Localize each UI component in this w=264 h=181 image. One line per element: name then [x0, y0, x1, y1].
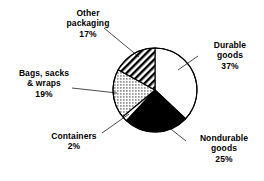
slice-label-durable-goods: Durable goods 37%	[200, 40, 260, 71]
slice-label-other-packaging: Other packaging 17%	[52, 8, 124, 39]
slice-label-bags-sacks-wraps: Bags, sacks & wraps 19%	[4, 68, 84, 99]
pie-chart-figure: Other packaging 17% Durable goods 37% Ba…	[0, 0, 264, 181]
pie-slices	[113, 48, 197, 132]
slice-label-other-packaging-line2: packaging	[52, 18, 124, 28]
slice-label-bags-sacks-wraps-line2: & wraps	[4, 78, 84, 88]
slice-label-containers-line1: Containers	[38, 131, 110, 141]
leader-line-nondurable-goods	[167, 126, 186, 141]
slice-label-other-packaging-value: 17%	[52, 29, 124, 39]
slice-label-containers-value: 2%	[38, 141, 110, 151]
slice-label-nondurable-goods-value: 25%	[186, 154, 262, 164]
slice-label-nondurable-goods: Nondurable goods 25%	[186, 133, 262, 164]
slice-label-bags-sacks-wraps-value: 19%	[4, 89, 84, 99]
slice-label-other-packaging-line1: Other	[52, 8, 124, 18]
slice-label-durable-goods-value: 37%	[200, 61, 260, 71]
slice-label-bags-sacks-wraps-line1: Bags, sacks	[4, 68, 84, 78]
slice-label-nondurable-goods-line1: Nondurable	[186, 133, 262, 143]
slice-label-durable-goods-line2: goods	[200, 50, 260, 60]
slice-label-durable-goods-line1: Durable	[200, 40, 260, 50]
slice-label-nondurable-goods-line2: goods	[186, 143, 262, 153]
slice-label-containers: Containers 2%	[38, 131, 110, 152]
